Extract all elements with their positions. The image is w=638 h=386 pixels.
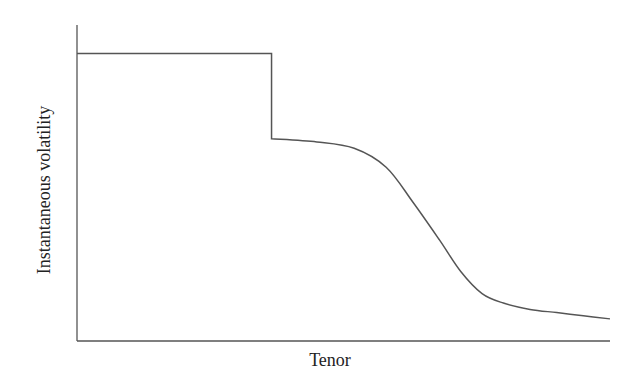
volatility-curve — [77, 53, 610, 318]
y-axis-label: Instantaneous volatility — [34, 106, 54, 274]
x-axis-label: Tenor — [309, 350, 351, 370]
volatility-chart: Tenor Instantaneous volatility — [0, 0, 638, 386]
